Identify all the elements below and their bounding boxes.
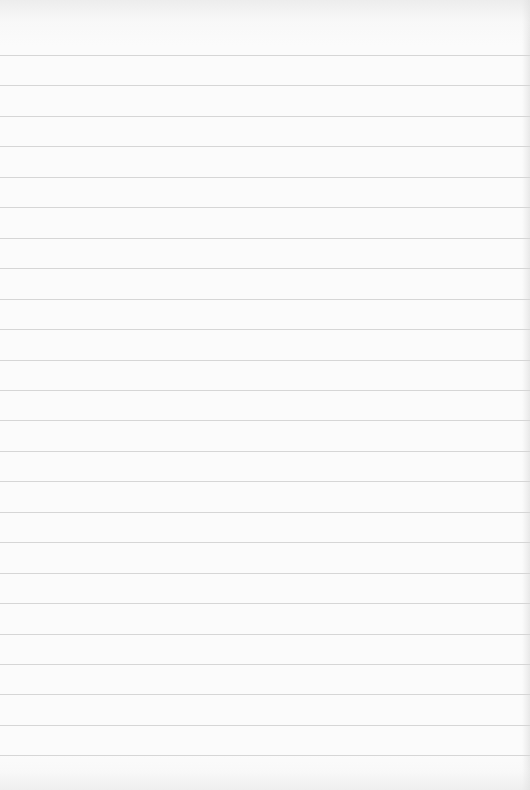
ruled-line xyxy=(0,420,530,421)
ruled-line xyxy=(0,755,530,756)
ruled-line xyxy=(0,603,530,604)
ruled-line xyxy=(0,512,530,513)
ruled-line xyxy=(0,177,530,178)
ruled-line xyxy=(0,299,530,300)
ruled-line xyxy=(0,207,530,208)
ruled-line xyxy=(0,329,530,330)
ruled-line xyxy=(0,268,530,269)
ruled-line xyxy=(0,85,530,86)
ruled-line xyxy=(0,481,530,482)
ruled-line xyxy=(0,634,530,635)
ruled-line xyxy=(0,55,530,56)
ruled-line xyxy=(0,360,530,361)
ruled-line xyxy=(0,146,530,147)
ruled-line xyxy=(0,573,530,574)
ruled-line xyxy=(0,725,530,726)
ruled-line xyxy=(0,664,530,665)
ruled-line xyxy=(0,238,530,239)
ruled-line xyxy=(0,390,530,391)
ruled-line xyxy=(0,116,530,117)
ruled-line xyxy=(0,451,530,452)
ruled-line xyxy=(0,542,530,543)
ruled-line xyxy=(0,694,530,695)
lined-paper xyxy=(0,0,530,790)
